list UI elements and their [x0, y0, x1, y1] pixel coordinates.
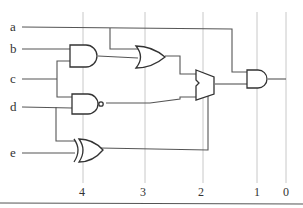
wire-and1-out	[98, 56, 138, 58]
xor-gate-extra-arc	[74, 139, 78, 162]
column-label-4: 4	[79, 186, 85, 198]
wire-a-to-or	[110, 28, 138, 49]
column-label-2: 2	[198, 186, 204, 198]
input-label-b: b	[10, 42, 17, 55]
xor-gate	[79, 139, 103, 162]
wires	[22, 27, 286, 153]
nand-bubble	[99, 102, 103, 106]
column-label-3: 3	[140, 186, 146, 198]
and-gate-1	[70, 45, 97, 67]
input-label-d: d	[10, 100, 17, 113]
gates	[70, 45, 267, 162]
input-label-c: c	[10, 72, 16, 85]
and-gate-2	[247, 70, 267, 88]
nand-gate	[72, 94, 98, 114]
wire-xor-out	[100, 93, 208, 150]
wire-nand-out	[106, 97, 197, 103]
wire-or-out	[165, 56, 197, 74]
wire-d	[22, 107, 72, 108]
input-label-e: e	[10, 146, 16, 159]
column-label-0: 0	[283, 186, 289, 198]
logic-circuit-diagram	[0, 0, 303, 208]
bottom-rule	[0, 203, 303, 204]
input-label-a: a	[10, 20, 16, 33]
mux	[196, 70, 214, 100]
or-gate	[136, 46, 165, 68]
column-label-1: 1	[254, 186, 260, 198]
